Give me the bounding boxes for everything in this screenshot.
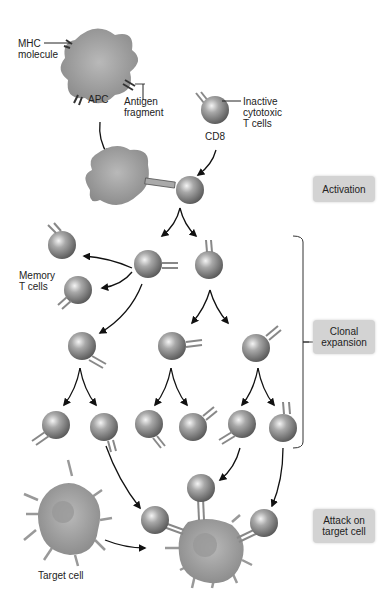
apc-label: APC: [88, 94, 109, 105]
target-cell-label: Target cell: [38, 570, 84, 581]
memory-label-line: Memory: [19, 270, 55, 281]
inactive-label-line: T cells: [243, 118, 282, 129]
mhc-label-line: MHC: [18, 38, 58, 49]
antigen-label: Antigen fragment: [124, 96, 163, 118]
inactive-t-cell: [196, 92, 229, 124]
stage-attack: Attack on target cell: [313, 509, 375, 543]
stage-clonal-expansion: Clonal expansion: [313, 320, 375, 354]
stage-clonal-text: expansion: [321, 337, 367, 348]
memory-label-line: T cells: [19, 281, 55, 292]
diagram-canvas: [0, 0, 389, 595]
stage-attack-text: target cell: [322, 526, 365, 537]
memory-label: Memory T cells: [19, 270, 55, 292]
activated-apc: [85, 146, 204, 205]
inactive-label-line: Inactive: [243, 96, 282, 107]
antigen-label-line: fragment: [124, 107, 163, 118]
inactive-label-line: cytotoxic: [243, 107, 282, 118]
antigen-label-line: Antigen: [124, 96, 163, 107]
mhc-label: MHC molecule: [18, 38, 58, 60]
stage-clonal-text: Clonal: [330, 326, 358, 337]
inactive-label: Inactive cytotoxic T cells: [243, 96, 282, 129]
attacked-target-cell: [141, 474, 278, 588]
cd8-label: CD8: [205, 131, 225, 142]
target-cell: [24, 460, 112, 566]
stage-attack-text: Attack on: [323, 515, 365, 526]
stage-activation: Activation: [313, 176, 375, 202]
mhc-label-line: molecule: [18, 49, 58, 60]
stage-activation-text: Activation: [322, 184, 365, 195]
